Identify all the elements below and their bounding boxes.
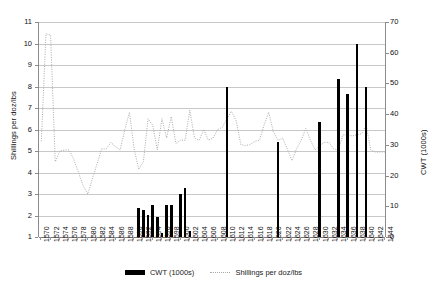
y-axis-left-tick-mark <box>35 151 38 152</box>
bar <box>346 94 349 237</box>
legend-bar-swatch-icon <box>125 270 145 275</box>
x-axis-tick-label: 1644 <box>387 226 394 242</box>
y-axis-right-tick-mark <box>386 83 389 84</box>
y-axis-left-tick-mark <box>35 130 38 131</box>
x-axis-tick-mark <box>96 237 97 240</box>
x-axis-tick-mark <box>133 237 134 240</box>
x-axis-tick-mark <box>170 237 171 240</box>
y-axis-left-tick-mark <box>35 44 38 45</box>
x-axis-tick-mark <box>161 237 162 240</box>
y-axis-right-tick-label: 40 <box>390 109 416 118</box>
y-axis-right-tick-label: 30 <box>390 140 416 149</box>
x-axis-tick-mark <box>189 237 190 240</box>
x-axis-tick-mark <box>87 237 88 240</box>
y-axis-left-tick-mark <box>35 173 38 174</box>
x-axis-tick-mark <box>77 237 78 240</box>
x-axis-tick-mark <box>254 237 255 240</box>
y-axis-right-tick-label: 20 <box>390 171 416 180</box>
x-axis-tick-mark <box>105 237 106 240</box>
x-axis-tick-mark <box>263 237 264 240</box>
bar <box>318 122 321 237</box>
y-axis-right-tick-mark <box>386 22 389 23</box>
bar <box>277 142 280 237</box>
y-axis-left-tick-mark <box>35 108 38 109</box>
legend-dotted-line-swatch-icon <box>210 272 230 273</box>
y-axis-right-tick-mark <box>386 206 389 207</box>
x-axis-tick-mark <box>244 237 245 240</box>
y-axis-left-tick-label: 9 <box>6 60 32 69</box>
y-axis-left-tick-label: 7 <box>6 103 32 112</box>
x-axis-tick-mark <box>356 237 357 240</box>
x-axis-tick-mark <box>180 237 181 240</box>
x-axis-tick-mark <box>124 237 125 240</box>
y-axis-left-tick-label: 10 <box>6 39 32 48</box>
bar <box>226 87 229 238</box>
bar <box>365 87 368 238</box>
x-axis-tick-mark <box>115 237 116 240</box>
x-axis-tick-mark <box>207 237 208 240</box>
x-axis-tick-mark <box>235 237 236 240</box>
y-axis-right-tick-mark <box>386 145 389 146</box>
y-axis-right-tick-mark <box>386 114 389 115</box>
y-axis-left-tick-label: 11 <box>6 17 32 26</box>
legend-label: Shillings per doz/lbs <box>235 268 302 277</box>
x-axis-tick-mark <box>374 237 375 240</box>
y-axis-left-tick-label: 5 <box>6 146 32 155</box>
x-axis-tick-mark <box>309 237 310 240</box>
y-axis-right-tick-label: 60 <box>390 48 416 57</box>
y-axis-left-tick-label: 4 <box>6 168 32 177</box>
y-axis-left-tick-label: 2 <box>6 211 32 220</box>
x-axis-tick-mark <box>384 237 385 240</box>
x-axis-tick-mark <box>347 237 348 240</box>
y-axis-right-tick-label: 50 <box>390 78 416 87</box>
chart-legend: CWT (1000s)Shillings per doz/lbs <box>0 268 427 277</box>
x-axis-tick-mark <box>365 237 366 240</box>
y-axis-left-tick-label: 6 <box>6 125 32 134</box>
y-axis-right-tick-label: 10 <box>390 201 416 210</box>
x-axis-tick-mark <box>152 237 153 240</box>
y-axis-left-tick-mark <box>35 237 38 238</box>
bar <box>356 44 359 237</box>
x-axis-tick-mark <box>282 237 283 240</box>
x-axis-tick-mark <box>50 237 51 240</box>
y-axis-left-tick-mark <box>35 194 38 195</box>
x-axis-tick-mark <box>337 237 338 240</box>
y-axis-right-tick-label: 70 <box>390 17 416 26</box>
y-axis-left-tick-label: 1 <box>6 232 32 241</box>
x-axis-tick-mark <box>68 237 69 240</box>
y-axis-right-title: CWT (1000s) <box>419 129 428 175</box>
x-axis-tick-mark <box>328 237 329 240</box>
x-axis-tick-mark <box>300 237 301 240</box>
y-axis-left-tick-mark <box>35 87 38 88</box>
x-axis-tick-mark <box>59 237 60 240</box>
y-axis-left-tick-label: 8 <box>6 82 32 91</box>
x-axis-tick-mark <box>319 237 320 240</box>
x-axis-tick-mark <box>226 237 227 240</box>
y-axis-left-tick-mark <box>35 65 38 66</box>
line-path <box>41 34 384 194</box>
shillings-line-series <box>39 22 387 237</box>
x-axis-tick-mark <box>291 237 292 240</box>
bar <box>337 79 340 237</box>
legend-item[interactable]: Shillings per doz/lbs <box>210 268 302 277</box>
plot-area <box>38 22 386 237</box>
x-axis-tick-mark <box>217 237 218 240</box>
legend-label: CWT (1000s) <box>150 268 194 277</box>
y-axis-right-tick-mark <box>386 176 389 177</box>
legend-item[interactable]: CWT (1000s) <box>125 268 194 277</box>
x-axis-tick-mark <box>198 237 199 240</box>
y-axis-right-tick-mark <box>386 53 389 54</box>
y-axis-left-tick-mark <box>35 22 38 23</box>
y-axis-left-tick-label: 3 <box>6 189 32 198</box>
x-axis-tick-mark <box>40 237 41 240</box>
y-axis-left-tick-mark <box>35 216 38 217</box>
x-axis-tick-mark <box>142 237 143 240</box>
x-axis-tick-mark <box>272 237 273 240</box>
